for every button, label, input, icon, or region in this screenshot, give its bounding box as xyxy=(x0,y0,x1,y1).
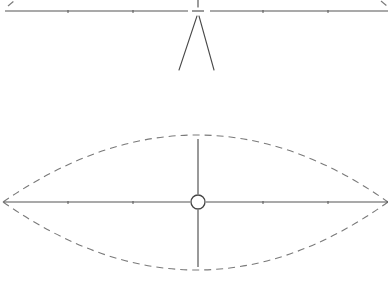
center-circle-marker xyxy=(191,195,205,209)
top-envelope-right-hint xyxy=(381,1,387,6)
bottom-view xyxy=(3,135,388,270)
beam-right-edge xyxy=(199,16,214,70)
diagram-svg xyxy=(0,0,388,294)
envelope-upper-arc xyxy=(3,135,388,202)
diagram-canvas xyxy=(0,0,388,294)
top-view xyxy=(5,0,388,70)
beam-left-edge xyxy=(179,16,197,70)
envelope-lower-arc xyxy=(3,202,388,270)
top-envelope-left-hint xyxy=(8,1,14,6)
